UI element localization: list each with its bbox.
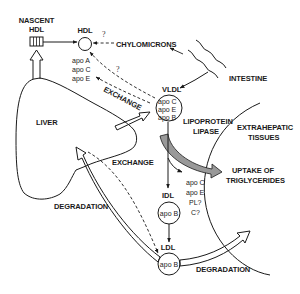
intestine-label: INTESTINE [229, 74, 267, 83]
liver-to-vldl-arrow [115, 112, 150, 130]
hdl-apo-e: apo E [72, 75, 91, 83]
lipase-uptake-arrow [160, 134, 222, 178]
idl-node: IDL apo B [158, 191, 180, 224]
degradation-left-label: DEGRADATION [54, 202, 108, 211]
vldl-label: VLDL [162, 85, 182, 94]
released-apo-e: apo E [186, 189, 205, 197]
hdl-node: HDL apo A apo C apo E [72, 26, 93, 83]
question-mark-2: ? [116, 65, 120, 74]
liver-label: LIVER [36, 118, 58, 127]
lipoprotein-diagram: NASCENT HDL HDL apo A apo C apo E CHYLOM… [0, 0, 300, 294]
vldl-apo-e: apo E [158, 106, 177, 114]
uptake-label-1: UPTAKE OF [232, 166, 274, 175]
liver-to-nascent-arrow [30, 50, 43, 79]
released-apo-c: apo C [186, 179, 205, 187]
ldl-apo-b: apo B [160, 261, 179, 269]
idl-apo-b: apo B [160, 210, 179, 218]
extrahepatic-label-1: EXTRAHEPATIC [237, 123, 294, 132]
vldl-apo-b: apo B [158, 114, 177, 122]
nascent-label: NASCENT [19, 16, 55, 25]
exchange-lower-label: EXCHANGE [112, 158, 154, 167]
hdl-label: HDL [77, 26, 93, 35]
vldl-to-hdl-dashed [90, 52, 155, 98]
hdl-apo-a: apo A [72, 57, 90, 65]
hdl-apo-c: apo C [72, 66, 91, 74]
nascent-hdl-label: HDL [29, 25, 45, 34]
released-pl: PL? [189, 199, 202, 206]
vldl-node: VLDL apo C apo E apo B [156, 85, 182, 122]
extrahepatic-label-2: TISSUES [248, 133, 279, 142]
intestine-wave-2 [188, 50, 218, 78]
ldl-node: LDL apo B [158, 243, 180, 275]
intestine-to-chylo-arrow [170, 48, 183, 54]
uptake-label-2: TRIGLYCERIDES [226, 176, 285, 185]
idl-label: IDL [162, 191, 174, 200]
question-mark: ? [102, 30, 106, 39]
vldl-apo-c: apo C [158, 98, 177, 106]
degradation-right-label: DEGRADATION [196, 265, 250, 274]
exchange-upper-label: EXCHANGE [102, 85, 143, 113]
chylomicrons-label: CHYLOMICRONS [116, 40, 177, 49]
lipase-label-1: LIPOPROTEIN [183, 117, 233, 126]
lipase-label-2: LIPASE [193, 127, 219, 136]
intestine-to-vldl-arrow [180, 72, 208, 88]
ldl-label: LDL [161, 243, 176, 252]
released-c: C? [191, 209, 200, 216]
intestine-wave-1 [196, 40, 226, 68]
